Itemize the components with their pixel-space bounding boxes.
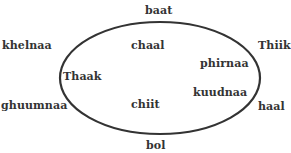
word-set-diagram: chaal phirnaa Thaak kuudnaa chiit baat k…	[0, 0, 291, 153]
outside-word-haal: haal	[258, 101, 285, 112]
inside-word-chiit: chiit	[131, 99, 160, 110]
set-ellipse	[0, 0, 291, 153]
inside-word-thaak: Thaak	[63, 71, 102, 82]
outside-word-bol: bol	[146, 140, 166, 151]
outside-word-thiik: Thiik	[258, 40, 291, 51]
outside-word-baat: baat	[145, 5, 172, 16]
outside-word-ghuumnaa: ghuumnaa	[1, 100, 67, 111]
outside-word-khelnaa: khelnaa	[2, 40, 52, 51]
inside-word-chaal: chaal	[131, 40, 165, 51]
inside-word-kuudnaa: kuudnaa	[193, 87, 247, 98]
inside-word-phirnaa: phirnaa	[200, 58, 249, 69]
